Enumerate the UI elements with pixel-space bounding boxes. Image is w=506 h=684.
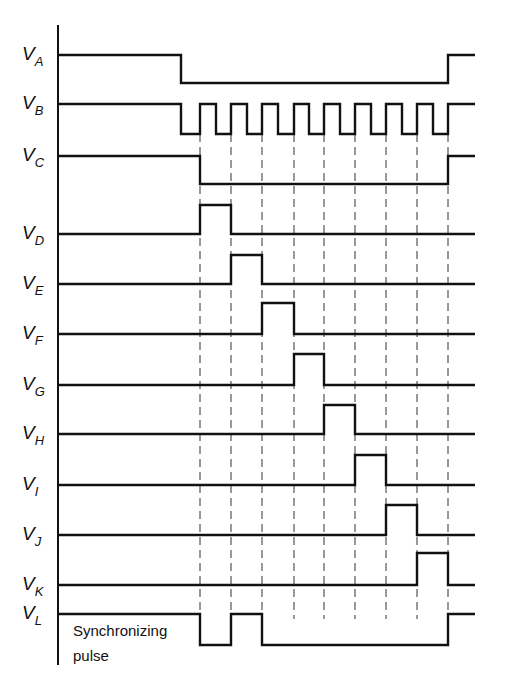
label-vf: VF	[22, 322, 44, 348]
label-vi: VI	[22, 473, 39, 499]
sync-pulse-annotation-line2: pulse	[73, 647, 109, 664]
timing-diagram: VAVBVCVDVEVFVGVHVIVJVKVL Synchronizing p…	[0, 0, 506, 684]
waveform-vg	[58, 354, 475, 385]
label-vd: VD	[22, 222, 44, 248]
waveform-va	[58, 55, 475, 83]
waveform-vb	[58, 104, 475, 134]
label-vk: VK	[22, 573, 45, 599]
label-vj: VJ	[22, 523, 42, 549]
label-vc: VC	[22, 144, 45, 170]
waveform-vk	[58, 553, 475, 585]
waveform-vf	[58, 303, 475, 334]
waveform-ve	[58, 255, 475, 284]
label-vg: VG	[22, 373, 45, 399]
label-vb: VB	[22, 92, 44, 118]
label-vl: VL	[22, 602, 42, 628]
label-vh: VH	[22, 422, 45, 448]
waveform-vc	[58, 156, 475, 184]
waveform-vh	[58, 405, 475, 434]
waveform-vd	[58, 205, 475, 234]
waveform-vi	[58, 455, 475, 485]
label-ve: VE	[22, 272, 44, 298]
label-va: VA	[22, 43, 43, 69]
signal-labels: VAVBVCVDVEVFVGVHVIVJVKVL	[22, 43, 45, 628]
waveforms	[58, 55, 475, 645]
waveform-vj	[58, 505, 475, 535]
sync-pulse-annotation-line1: Synchronizing	[73, 622, 167, 639]
